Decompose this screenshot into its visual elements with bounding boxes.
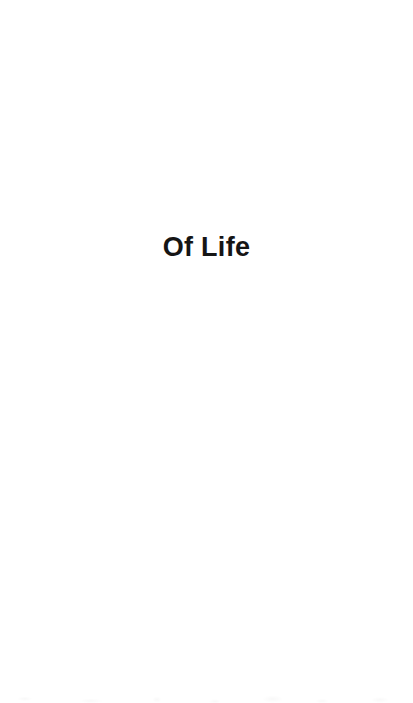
scanned-book-page: Of Life bbox=[0, 0, 413, 703]
page-title-block: Of Life bbox=[0, 231, 413, 263]
page-title: Of Life bbox=[163, 231, 251, 263]
scan-noise-artifact bbox=[0, 689, 413, 703]
